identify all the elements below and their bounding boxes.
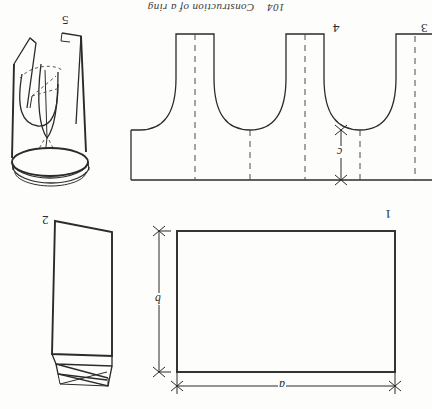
book-page: 104 Construction of a ring	[0, 0, 432, 409]
figure-5-drawing	[0, 12, 120, 207]
figure-1-dimension-a: a	[278, 379, 286, 391]
figure-2-drawing	[8, 208, 128, 404]
figure-1: b a 1	[140, 200, 432, 409]
figure-4-dimension-c: c	[336, 146, 343, 158]
figure-2: 2	[8, 208, 128, 404]
figure-4-drawing	[118, 22, 432, 197]
figure-4: 4 c 3	[118, 22, 432, 197]
figure-1-label: 1	[385, 208, 392, 221]
figure-3-label: 3	[421, 22, 428, 35]
figure-1-drawing	[140, 200, 432, 409]
figure-5: 5	[0, 12, 120, 207]
figure-1-dimension-b: b	[154, 293, 162, 305]
figure-2-label: 2	[42, 214, 49, 227]
figure-4-label: 4	[333, 22, 340, 35]
figure-5-label: 5	[62, 14, 69, 27]
